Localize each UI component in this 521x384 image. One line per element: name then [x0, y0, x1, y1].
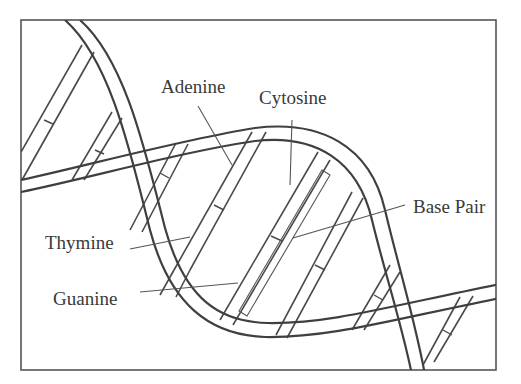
thymine-leader: [130, 237, 190, 249]
label-thymine: Thymine: [45, 232, 114, 253]
cytosine-leader: [290, 120, 292, 185]
label-adenine: Adenine: [161, 76, 225, 97]
strand-a: [65, 20, 500, 337]
diagram-frame: [21, 20, 496, 370]
label-base-pair: Base Pair: [413, 196, 486, 217]
label-guanine: Guanine: [53, 288, 117, 309]
adenine-leader: [198, 106, 232, 165]
leader-lines: [130, 106, 405, 292]
dna-diagram: Adenine Cytosine Base Pair Thymine Guani…: [0, 0, 521, 384]
base-pair-highlight: [239, 170, 330, 316]
label-cytosine: Cytosine: [259, 87, 327, 108]
